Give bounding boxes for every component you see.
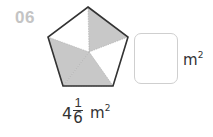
area-whole-number: 4 — [62, 104, 72, 123]
area-fraction: 1 6 — [73, 97, 83, 125]
answer-unit: m2 — [183, 51, 203, 69]
area-unit: m2 — [90, 104, 110, 122]
answer-input-box[interactable] — [134, 33, 178, 84]
fraction-denominator: 6 — [73, 112, 83, 125]
fraction-numerator: 1 — [73, 97, 83, 109]
